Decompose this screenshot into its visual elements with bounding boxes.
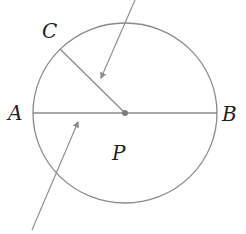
label-p: P: [111, 141, 126, 165]
circle-diagram: C A B P: [0, 0, 246, 234]
label-b: B: [221, 102, 237, 126]
label-a: A: [6, 101, 22, 125]
arrow-upper: [101, 0, 135, 78]
arrow-lower: [32, 122, 78, 230]
radius-pc: [60, 49, 125, 113]
label-c: C: [42, 19, 57, 43]
center-point: [122, 110, 128, 116]
